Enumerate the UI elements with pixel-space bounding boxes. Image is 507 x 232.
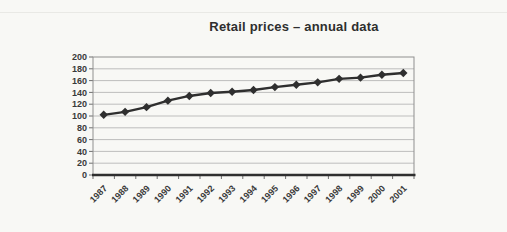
y-axis-tick-label: 80 (77, 123, 87, 133)
x-axis-tick-label: 1990 (152, 183, 173, 204)
x-axis-tick-label: 1993 (216, 183, 237, 204)
x-axis-tick-label: 1992 (195, 183, 216, 204)
scanned-page: Retail prices – annual data 020406080100… (0, 0, 507, 232)
data-point-2000 (378, 71, 386, 79)
data-point-1998 (335, 75, 343, 83)
data-point-2001 (399, 69, 407, 77)
plot-area: 0204060801001201401601802001987198819891… (72, 52, 416, 204)
data-point-1988 (121, 108, 129, 116)
x-axis-tick-label: 1998 (323, 183, 344, 204)
y-axis-tick-label: 180 (72, 64, 87, 74)
data-point-1997 (314, 78, 322, 86)
y-axis-tick-label: 20 (77, 158, 87, 168)
data-point-1992 (207, 89, 215, 97)
x-axis-tick-label: 1999 (345, 183, 366, 204)
x-axis-tick-label: 1995 (259, 183, 280, 204)
x-axis-tick-label: 1996 (280, 183, 301, 204)
y-axis-tick-label: 160 (72, 76, 87, 86)
data-point-1991 (185, 92, 193, 100)
y-axis-tick-label: 120 (72, 99, 87, 109)
data-point-1995 (271, 83, 279, 91)
y-axis-tick-label: 60 (77, 135, 87, 145)
y-axis-tick-label: 40 (77, 147, 87, 157)
y-axis-tick-label: 140 (72, 88, 87, 98)
y-axis-tick-label: 100 (72, 111, 87, 121)
data-point-1990 (164, 96, 172, 104)
data-point-1993 (228, 88, 236, 96)
chart-title: Retail prices – annual data (209, 19, 379, 34)
data-point-1994 (249, 86, 257, 94)
x-axis-tick-label: 2000 (366, 183, 387, 204)
data-point-1996 (292, 81, 300, 89)
x-axis-tick-label: 1994 (238, 183, 259, 204)
x-axis-tick-label: 2001 (387, 183, 408, 204)
y-axis-tick-label: 200 (72, 52, 87, 62)
x-axis-tick-label: 1988 (109, 183, 130, 204)
x-axis-tick-label: 1989 (131, 183, 152, 204)
y-axis-tick-label: 0 (82, 170, 87, 180)
x-axis-tick-label: 1991 (173, 183, 194, 204)
x-axis-tick-label: 1997 (302, 183, 323, 204)
data-point-1987 (100, 111, 108, 119)
x-axis-tick-label: 1987 (88, 183, 109, 204)
retail-prices-line-chart: Retail prices – annual data 020406080100… (0, 0, 507, 232)
